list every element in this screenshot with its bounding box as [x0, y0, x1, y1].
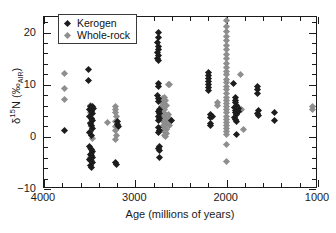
data-point-kerogen: [233, 118, 240, 125]
y-axis-title-close-paren: ): [10, 68, 22, 72]
legend-label: Kerogen: [77, 17, 117, 29]
y-axis-title-delta: δ: [10, 118, 22, 124]
data-point-kerogen: [155, 83, 162, 90]
legend-label: Whole-rock: [77, 29, 130, 41]
x-axis-tick-label: 1000: [305, 191, 329, 203]
y-axis-tick-label: 10: [0, 78, 36, 90]
x-axis-tick-label: 3000: [122, 191, 146, 203]
y-axis-title-element: N: [10, 101, 22, 109]
data-point-whole: [104, 119, 111, 126]
x-axis-major-tick: [318, 180, 319, 187]
diamond-marker-icon: [64, 19, 71, 26]
data-point-kerogen: [209, 112, 216, 119]
x-axis-top-tick: [318, 17, 319, 24]
chart-legend: Kerogen Whole-rock: [58, 14, 137, 44]
data-point-kerogen: [271, 109, 278, 116]
legend-item-whole-rock: Whole-rock: [63, 29, 130, 41]
legend-item-kerogen: Kerogen: [63, 17, 130, 29]
x-axis-tick-label: 2000: [213, 191, 237, 203]
plot-area: Kerogen Whole-rock: [43, 16, 317, 188]
y-axis-title-mass: 15: [8, 109, 17, 118]
diamond-marker-icon: [64, 31, 71, 38]
y-axis-tick-label: 20: [0, 26, 36, 38]
x-axis-tick-label: 4000: [31, 191, 55, 203]
data-point-kerogen: [233, 131, 240, 138]
data-point-whole: [237, 71, 244, 78]
data-point-kerogen: [230, 80, 237, 87]
data-point-whole: [61, 96, 68, 103]
x-axis-title: Age (millions of years): [43, 208, 317, 220]
chart-page: δ15N (‰AIR) Age (millions of years) −100…: [0, 0, 336, 233]
y-axis-right-tick: [309, 189, 316, 190]
data-point-whole: [223, 141, 230, 148]
y-axis-major-tick: [44, 189, 51, 190]
data-point-kerogen: [271, 117, 278, 124]
data-point-whole: [61, 70, 68, 77]
y-axis-title-open-paren: (: [10, 94, 22, 101]
data-point-whole: [240, 126, 247, 133]
data-point-kerogen: [61, 127, 68, 134]
data-point-kerogen: [85, 66, 92, 73]
data-point-kerogen: [254, 90, 261, 97]
data-point-whole: [61, 85, 68, 92]
data-point-kerogen: [85, 77, 92, 84]
data-point-whole: [223, 158, 230, 165]
data-point-kerogen: [156, 154, 163, 161]
y-axis-tick-label: 0: [0, 130, 36, 142]
